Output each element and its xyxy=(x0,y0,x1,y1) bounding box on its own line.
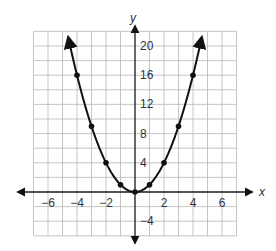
data-point xyxy=(161,160,167,166)
x-tick-label: −4 xyxy=(70,196,84,210)
x-tick-label: −6 xyxy=(41,196,55,210)
y-tick-label: 16 xyxy=(140,68,154,82)
x-axis-label: x xyxy=(258,185,266,199)
data-point xyxy=(176,124,182,130)
data-point xyxy=(147,182,153,188)
y-tick-label: 4 xyxy=(140,156,147,170)
data-point xyxy=(190,72,196,78)
y-axis-label: y xyxy=(129,11,137,25)
y-tick-label: −4 xyxy=(140,214,154,228)
x-tick-label: 2 xyxy=(161,196,168,210)
data-point xyxy=(118,182,124,188)
x-tick-label: 4 xyxy=(190,196,197,210)
y-tick-label: 8 xyxy=(140,127,147,141)
y-tick-label: 12 xyxy=(140,97,154,111)
parabola-chart: x y −6−4−2246−448121620 xyxy=(0,0,276,251)
data-point xyxy=(132,189,138,195)
x-tick-label: −2 xyxy=(99,196,113,210)
data-point xyxy=(103,160,109,166)
data-point xyxy=(74,72,80,78)
data-point xyxy=(89,124,95,130)
x-tick-label: 6 xyxy=(219,196,226,210)
y-tick-label: 20 xyxy=(140,39,154,53)
